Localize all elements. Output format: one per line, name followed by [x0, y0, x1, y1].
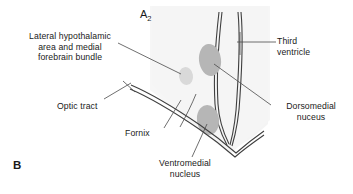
- label-ventromedial-line1: Ventromedial: [140, 158, 230, 169]
- label-dorsomedial-line2: nuceus: [272, 112, 350, 123]
- leader-line-optic-tract: [104, 83, 131, 99]
- panel-label-a2-subscript: 2: [147, 14, 151, 23]
- label-third-ventricle: Third ventricle: [277, 36, 347, 57]
- label-lateral-hypothalamic-line3: forebrain bundle: [8, 52, 132, 63]
- anatomical-figure-panel: A2 Lateral hypothalamic area and medial …: [0, 0, 353, 194]
- label-fornix-line1: Fornix: [125, 128, 177, 139]
- panel-label-b: B: [13, 159, 21, 171]
- panel-label-a2: A2: [140, 8, 152, 20]
- label-ventromedial-nucleus: Ventromedial nucleus: [140, 158, 230, 179]
- label-lateral-hypothalamic-area: Lateral hypothalamic area and medial for…: [8, 31, 132, 63]
- label-ventromedial-line2: nucleus: [140, 169, 230, 180]
- label-dorsomedial-line1: Dorsomedial: [272, 101, 350, 112]
- label-dorsomedial-nucleus: Dorsomedial nuceus: [272, 101, 350, 122]
- label-third-ventricle-line2: ventricle: [277, 47, 347, 58]
- label-optic-tract-line1: Optic tract: [57, 101, 127, 112]
- label-lateral-hypothalamic-line2: area and medial: [8, 42, 132, 53]
- label-lateral-hypothalamic-line1: Lateral hypothalamic: [8, 31, 132, 42]
- label-third-ventricle-line1: Third: [277, 36, 347, 47]
- label-fornix: Fornix: [125, 128, 177, 139]
- label-optic-tract: Optic tract: [57, 101, 127, 112]
